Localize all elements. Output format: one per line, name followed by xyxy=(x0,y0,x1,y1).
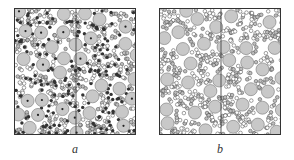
panel-a xyxy=(14,8,136,135)
panel-label-b: b xyxy=(210,142,230,157)
panel-b xyxy=(159,8,281,135)
particle-packing-b xyxy=(160,9,281,135)
particle-packing-a xyxy=(15,9,136,135)
panel-label-a: a xyxy=(65,142,85,157)
